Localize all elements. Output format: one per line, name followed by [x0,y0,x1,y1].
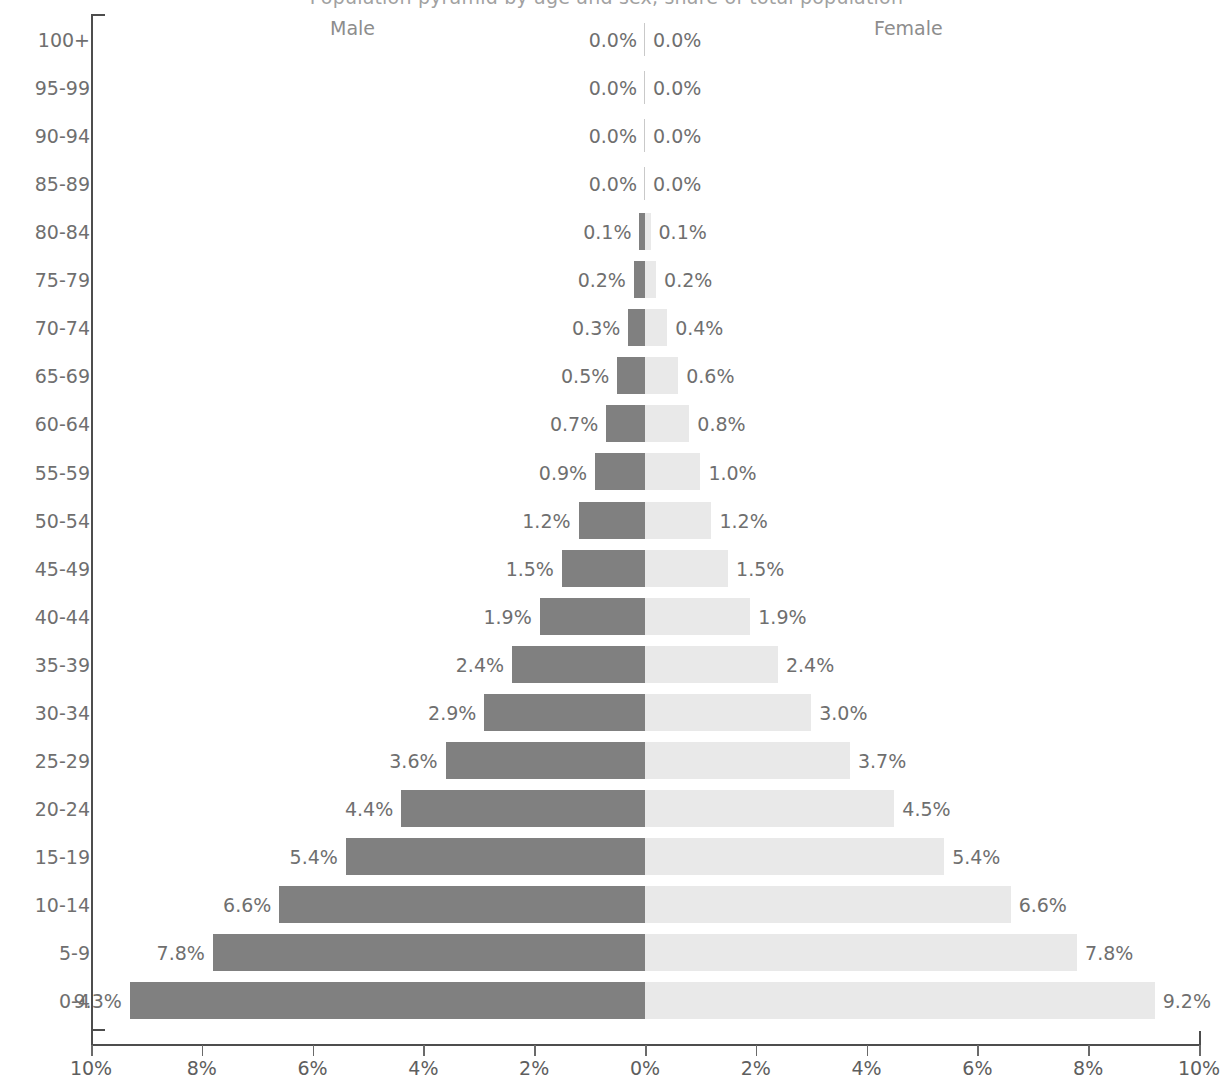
value-label-female: 0.4% [675,317,723,339]
bar-male[interactable] [484,694,645,731]
x-axis-tick-label: 6% [298,1057,328,1079]
bar-female[interactable] [645,598,750,635]
bar-male[interactable] [595,453,645,490]
bar-female[interactable] [645,934,1077,971]
bar-female[interactable] [645,261,656,298]
bar-female[interactable] [645,838,944,875]
age-group-label: 60-64 [35,413,90,435]
x-axis-tick [202,1045,204,1056]
value-label-male: 0.0% [589,77,637,99]
bar-male[interactable] [540,598,645,635]
bar-male[interactable] [628,309,645,346]
age-group-label: 10-14 [35,894,90,916]
pyramid-row: 10-146.6%6.6% [0,882,1213,928]
value-label-male: 0.9% [539,462,587,484]
age-group-label: 20-24 [35,798,90,820]
value-label-female: 0.0% [653,77,701,99]
x-axis-tick-label: 8% [1073,1057,1103,1079]
x-axis-tick-label: 10% [1178,1057,1220,1079]
bar-male[interactable] [512,646,645,683]
value-label-female: 1.5% [736,558,784,580]
bar-male[interactable] [446,742,645,779]
value-label-male: 1.2% [522,510,570,532]
plot-area: 100+0.0%0.0%95-990.0%0.0%90-940.0%0.0%85… [0,0,1213,1046]
x-axis-tick-label: 4% [852,1057,882,1079]
age-group-label: 45-49 [35,558,90,580]
bar-male[interactable] [213,934,645,971]
x-axis-tick [534,1045,536,1056]
value-label-female: 3.7% [858,750,906,772]
bar-female[interactable] [645,213,651,250]
value-label-male: 9.3% [74,990,122,1012]
age-group-label: 55-59 [35,462,90,484]
x-axis-tick [313,1045,315,1056]
value-label-female: 0.0% [653,125,701,147]
bar-female[interactable] [645,646,778,683]
bar-female[interactable] [645,502,711,539]
bar-male[interactable] [279,886,645,923]
value-label-female: 6.6% [1019,894,1067,916]
x-axis-tick [645,1045,647,1056]
value-label-male: 0.2% [578,269,626,291]
bar-female[interactable] [645,309,667,346]
value-label-female: 0.0% [653,29,701,51]
x-axis-tick-label: 2% [519,1057,549,1079]
pyramid-row: 90-940.0%0.0% [0,113,1213,159]
x-axis-tick [1199,1045,1201,1056]
pyramid-row: 75-790.2%0.2% [0,257,1213,303]
pyramid-row: 15-195.4%5.4% [0,834,1213,880]
pyramid-row: 65-690.5%0.6% [0,353,1213,399]
pyramid-row: 35-392.4%2.4% [0,642,1213,688]
bar-male[interactable] [634,261,645,298]
bar-male[interactable] [346,838,645,875]
zero-center-tick [644,71,645,104]
x-axis-tick [91,1045,93,1056]
age-group-label: 35-39 [35,654,90,676]
y-axis-cap-bottom [91,1029,105,1031]
bar-male[interactable] [606,405,645,442]
value-label-male: 7.8% [157,942,205,964]
bar-female[interactable] [645,790,894,827]
age-group-label: 90-94 [35,125,90,147]
bar-female[interactable] [645,886,1011,923]
value-label-male: 1.5% [506,558,554,580]
value-label-female: 0.2% [664,269,712,291]
y-axis-cap-top [91,14,105,16]
bar-female[interactable] [645,357,678,394]
value-label-female: 3.0% [819,702,867,724]
x-axis-tick-label: 4% [408,1057,438,1079]
value-label-male: 0.1% [583,221,631,243]
value-label-female: 0.1% [659,221,707,243]
value-label-female: 0.0% [653,173,701,195]
age-group-label: 70-74 [35,317,90,339]
value-label-female: 9.2% [1163,990,1211,1012]
bar-female[interactable] [645,453,700,490]
zero-center-tick [644,167,645,200]
value-label-male: 0.0% [589,29,637,51]
pyramid-row: 95-990.0%0.0% [0,65,1213,111]
age-group-label: 85-89 [35,173,90,195]
bar-male[interactable] [617,357,645,394]
pyramid-row: 30-342.9%3.0% [0,690,1213,736]
value-label-male: 2.4% [456,654,504,676]
pyramid-row: 0-49.3%9.2% [0,978,1213,1024]
age-group-label: 5-9 [59,942,90,964]
value-label-female: 2.4% [786,654,834,676]
x-axis-tick-label: 0% [630,1057,660,1079]
bar-female[interactable] [645,982,1155,1019]
bar-male[interactable] [579,502,645,539]
zero-center-tick [644,23,645,56]
x-axis-tick [867,1045,869,1056]
bar-male[interactable] [562,550,645,587]
value-label-male: 0.0% [589,173,637,195]
pyramid-row: 85-890.0%0.0% [0,161,1213,207]
bar-male[interactable] [130,982,645,1019]
bar-female[interactable] [645,405,689,442]
bar-female[interactable] [645,742,850,779]
x-axis-cap-right [1199,1031,1201,1045]
bar-female[interactable] [645,550,728,587]
pyramid-row: 50-541.2%1.2% [0,498,1213,544]
bar-female[interactable] [645,694,811,731]
bar-male[interactable] [401,790,645,827]
